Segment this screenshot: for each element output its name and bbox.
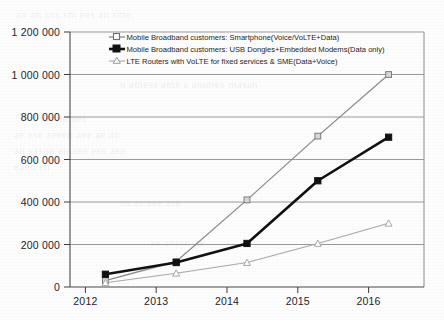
x-axis-ticks <box>85 287 368 293</box>
data-point-marker-square <box>386 134 392 140</box>
y-tick-label: 200 000 <box>21 239 60 251</box>
legend-marker-square-filled <box>113 45 120 52</box>
legend-entry-usb-dongles: Mobile Broadband customers: USB Dongles+… <box>109 45 385 54</box>
x-tick-label: 2012 <box>73 295 97 307</box>
data-point-marker-square <box>173 259 179 265</box>
legend-marker-square-open <box>114 34 120 40</box>
y-axis-ticks <box>64 32 70 287</box>
legend-entry-smartphone: Mobile Broadband customers: Smartphone(V… <box>109 33 340 42</box>
data-point-marker-square <box>244 197 250 203</box>
y-tick-label: 600 000 <box>21 154 60 166</box>
x-axis-tick-labels: 2012 2013 2014 2015 2016 <box>73 295 380 307</box>
data-series <box>102 134 391 277</box>
legend-label: Mobile Broadband customers: Smartphone(V… <box>127 33 340 42</box>
x-tick-label: 2015 <box>286 295 310 307</box>
data-point-marker-square <box>386 72 392 78</box>
legend-marker-triangle-open <box>113 57 120 63</box>
y-tick-label: 400 000 <box>21 196 60 208</box>
data-point-marker-square <box>315 133 321 139</box>
chart-legend: Mobile Broadband customers: Smartphone(V… <box>109 33 385 66</box>
y-axis-tick-labels: 1 200 000 1 000 000 800 000 600 000 400 … <box>11 26 60 293</box>
series-line <box>105 137 388 274</box>
data-point-marker-square <box>315 178 321 184</box>
line-chart-svg: 1 200 000 1 000 000 800 000 600 000 400 … <box>0 0 444 320</box>
x-tick-label: 2013 <box>144 295 168 307</box>
data-series-layer <box>102 72 392 286</box>
x-tick-label: 2016 <box>357 295 381 307</box>
legend-entry-lte-routers: LTE Routers with VoLTE for fixed service… <box>109 57 338 66</box>
data-series <box>102 220 392 286</box>
series-line <box>105 75 388 281</box>
chart-container: an an sns sm ees an sme n amess ams a am… <box>0 0 444 320</box>
legend-label: Mobile Broadband customers: USB Dongles+… <box>127 45 386 54</box>
data-series <box>103 72 392 284</box>
data-point-marker-square <box>102 271 108 277</box>
y-tick-label: 800 000 <box>21 111 60 123</box>
series-line <box>105 223 388 283</box>
data-point-marker-square <box>244 240 250 246</box>
y-tick-label: 1 200 000 <box>11 26 60 38</box>
data-point-marker-triangle <box>385 220 392 226</box>
y-tick-label: 1 000 000 <box>11 69 60 81</box>
x-tick-label: 2014 <box>215 295 239 307</box>
legend-label: LTE Routers with VoLTE for fixed service… <box>127 57 338 66</box>
y-tick-label: 0 <box>54 281 60 293</box>
